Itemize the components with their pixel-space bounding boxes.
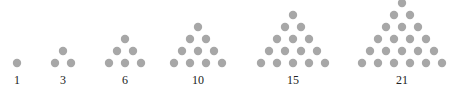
triangle-3: 3 [51, 47, 75, 87]
dot [289, 11, 297, 19]
dot [366, 47, 374, 55]
dot [305, 35, 313, 43]
dot [121, 35, 129, 43]
dot [51, 59, 59, 67]
dot [398, 0, 406, 7]
dot [390, 59, 398, 67]
dot [194, 47, 202, 55]
dot [265, 47, 273, 55]
dot [374, 35, 382, 43]
dot [406, 11, 414, 19]
dot [186, 35, 194, 43]
dot [257, 59, 265, 67]
dot [113, 47, 121, 55]
dot [273, 35, 281, 43]
triangle-21: 21 [358, 0, 446, 87]
dot [186, 59, 194, 67]
dot [414, 23, 422, 31]
dot [422, 35, 430, 43]
dot [13, 59, 21, 67]
triangle-groups: 136101521 [13, 0, 446, 87]
triangle-count-label: 15 [287, 73, 299, 87]
dot [281, 47, 289, 55]
dot [390, 11, 398, 19]
triangle-count-label: 6 [122, 73, 128, 87]
dot [67, 59, 75, 67]
dot [273, 59, 281, 67]
dot [438, 59, 446, 67]
dot [398, 47, 406, 55]
triangle-6: 6 [105, 35, 145, 87]
dot [194, 23, 202, 31]
dot [210, 47, 218, 55]
dot [358, 59, 366, 67]
dot [414, 47, 422, 55]
dot [105, 59, 113, 67]
dot [305, 59, 313, 67]
dot [406, 35, 414, 43]
triangular-numbers-diagram: 136101521 [0, 0, 463, 89]
dot [178, 47, 186, 55]
dot [398, 23, 406, 31]
dot [297, 23, 305, 31]
triangle-1: 1 [13, 59, 21, 87]
dot [170, 59, 178, 67]
dot [382, 47, 390, 55]
dot [297, 47, 305, 55]
triangle-count-label: 1 [14, 73, 20, 87]
triangle-10: 10 [170, 23, 226, 87]
dot [129, 47, 137, 55]
dot [430, 47, 438, 55]
dot [313, 47, 321, 55]
dot [382, 23, 390, 31]
dot [281, 23, 289, 31]
dot [202, 35, 210, 43]
dot [406, 59, 414, 67]
dot [218, 59, 226, 67]
triangle-count-label: 10 [192, 73, 204, 87]
dot [137, 59, 145, 67]
dot [321, 59, 329, 67]
dot [289, 59, 297, 67]
triangle-count-label: 3 [60, 73, 66, 87]
dot [422, 59, 430, 67]
triangle-15: 15 [257, 11, 329, 87]
dot [59, 47, 67, 55]
triangle-count-label: 21 [396, 73, 408, 87]
dot [289, 35, 297, 43]
dot [374, 59, 382, 67]
dot [390, 35, 398, 43]
dot [121, 59, 129, 67]
dot [202, 59, 210, 67]
